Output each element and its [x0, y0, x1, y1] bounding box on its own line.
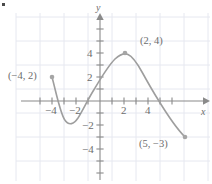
- grid-lines: [16, 13, 210, 181]
- point-dot-right: [183, 135, 188, 140]
- x-tick-label-pos2: 2: [121, 105, 127, 116]
- y-tick-label-neg2: −2: [82, 120, 94, 131]
- point-label-left: (−4, 2): [8, 71, 37, 82]
- x-axis-name-label: x: [201, 107, 205, 117]
- point-label-right: (5, −3): [139, 139, 168, 150]
- x-tick-label-neg4: −4: [45, 105, 57, 116]
- point-label-peak: (2, 4): [140, 36, 163, 47]
- marked-point-dots: [50, 51, 188, 140]
- y-tick-label-pos2: 2: [87, 72, 93, 83]
- point-dot-left: [50, 75, 55, 80]
- x-tick-label-neg2: −2: [69, 105, 81, 116]
- y-axis: [96, 13, 103, 180]
- y-tick-label-pos4: 4: [87, 48, 93, 59]
- y-tick-label-neg4: −4: [82, 144, 94, 155]
- point-dot-peak: [123, 51, 128, 56]
- y-axis-name-label: y: [96, 3, 100, 13]
- coordinate-plane: [0, 0, 212, 184]
- graph-figure: y x −4 −2 2 4 4 2 −2 −4 (−4, 2) (2, 4) (…: [0, 0, 212, 184]
- function-curve: [52, 54, 185, 137]
- x-tick-label-pos4: 4: [145, 105, 151, 116]
